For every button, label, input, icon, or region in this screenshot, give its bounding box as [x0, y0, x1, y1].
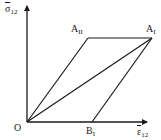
y-axis-label: σ12	[5, 4, 17, 14]
edge-o-ai	[27, 38, 152, 122]
parallelogram-diagram	[0, 0, 161, 140]
x-axis-label: ε12	[137, 127, 148, 137]
edge-o-aii	[27, 38, 88, 122]
point-bi-letter: B	[86, 125, 93, 136]
point-aii-subscript: II	[78, 28, 83, 36]
y-axis-subscript: 12	[10, 8, 17, 16]
point-label-ai: AI	[146, 24, 156, 34]
origin-text: O	[14, 122, 21, 133]
x-axis-subscript: 12	[141, 131, 148, 139]
point-label-aii: AII	[71, 24, 83, 34]
point-bi-subscript: I	[93, 130, 95, 138]
origin-label: O	[14, 123, 21, 133]
point-ai-subscript: I	[153, 28, 155, 36]
point-label-bi: BI	[86, 126, 95, 136]
edge-bi-ai	[92, 38, 152, 122]
